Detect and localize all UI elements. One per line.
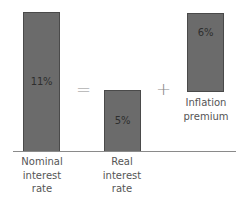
nominal-rate-value: 11% — [24, 76, 59, 87]
nominal-label-line-1: Nominal — [12, 155, 72, 169]
inflation-label-line-1: Inflation — [180, 96, 232, 110]
real-rate-label: Real interest rate — [92, 155, 152, 196]
real-label-line-3: rate — [92, 182, 152, 196]
nominal-label-line-2: interest — [12, 169, 72, 183]
plus-sign: + — [156, 80, 171, 98]
baseline-axis — [13, 151, 236, 152]
real-rate-value: 5% — [105, 115, 140, 126]
inflation-premium-value: 6% — [188, 27, 223, 38]
real-label-line-1: Real — [92, 155, 152, 169]
inflation-premium-label: Inflation premium — [180, 96, 232, 123]
nominal-rate-label: Nominal interest rate — [12, 155, 72, 196]
inflation-premium-bar: 6% — [187, 13, 224, 92]
real-label-line-2: interest — [92, 169, 152, 183]
nominal-rate-bar: 11% — [23, 12, 60, 152]
real-rate-bar: 5% — [104, 90, 141, 152]
inflation-label-line-2: premium — [180, 110, 232, 124]
equals-sign: = — [76, 81, 91, 99]
nominal-label-line-3: rate — [12, 182, 72, 196]
